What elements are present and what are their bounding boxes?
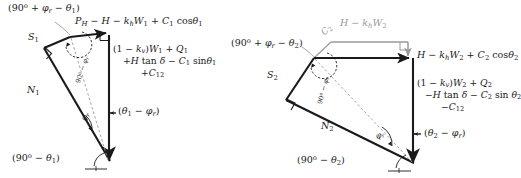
left-bottom-angle-arc xyxy=(94,153,104,166)
left-leader-line xyxy=(55,22,70,35)
right-leader-line xyxy=(302,47,314,57)
right-right-force-label: (1 − kv)W2 + Q2 −H tan δ − C2 sin θ2 −C1… xyxy=(417,78,521,114)
left-S1-vector xyxy=(44,37,70,48)
left-N1-vector xyxy=(44,48,110,161)
right-force-line-3: −C12 xyxy=(417,102,521,114)
left-top-force-vector xyxy=(70,33,106,37)
right-N2-label: N2 xyxy=(321,121,334,133)
left-force-line-3: +C12 xyxy=(113,68,216,80)
right-theta-phi-label: (θ2 − φr) xyxy=(424,128,465,140)
left-theta-phi-label: (θ1 − φr) xyxy=(118,106,159,118)
left-apex-arc-head xyxy=(66,42,70,47)
right-gray-top-force-label: H − khW2 xyxy=(340,18,387,30)
right-S2-vector xyxy=(286,58,314,100)
right-gray-C2-segment xyxy=(314,42,331,58)
right-apex-arc-head xyxy=(311,63,315,68)
left-apex-angle-label: (90o + φr − θ1) xyxy=(8,3,80,15)
right-dashed-resultant xyxy=(315,59,412,162)
right-force-line-2: −H tan δ − C2 sin θ2 xyxy=(417,90,521,102)
right-top-force-label: H − khW2 + C2 cosθ2 xyxy=(417,50,518,62)
left-top-force-label: PH − H − khW1 + C1 cosθ1 xyxy=(75,16,203,28)
left-dashed-resultant xyxy=(71,38,108,160)
left-right-force-label: (1 − kv)W1 + Q1 +H tan δ − C1 sinθ1 +C12 xyxy=(113,44,216,80)
left-polygon-graphics xyxy=(44,22,116,171)
left-bottom-angle-label: (90o − θ1) xyxy=(12,153,60,165)
left-S1-label: S1 xyxy=(28,32,39,44)
right-bottom-angle-label: (90o − θ2) xyxy=(297,155,345,167)
right-S2-label: S2 xyxy=(267,70,278,82)
right-gray-right-angle-marker xyxy=(400,42,408,50)
right-apex-angle-label: (90o + φr − θ2) xyxy=(231,38,303,50)
right-phi-arc-head xyxy=(388,141,392,146)
left-N1-label: N1 xyxy=(27,85,40,97)
left-force-line-2: +H tan δ − C1 sinθ1 xyxy=(113,56,216,68)
